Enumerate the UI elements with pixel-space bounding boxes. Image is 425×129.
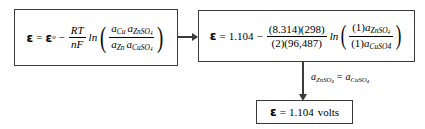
minus-sign: − — [56, 32, 68, 43]
subscript-znso: ZnSO — [316, 76, 332, 83]
subscript-4: 4 — [367, 79, 369, 84]
standard-cell-potential-value: 1.104 — [229, 31, 254, 42]
result-box: ε = 1.104 volts — [256, 100, 353, 124]
subscript-cuso: CuSO — [350, 76, 366, 83]
numeric-nernst-equation-box: ε = 1.104 − (8.314)(298) (2)(96,487) ln … — [198, 10, 415, 62]
subscript-zn: Zn — [117, 43, 125, 52]
activity-a-znso4: a — [125, 22, 133, 34]
activity-ratio-denominator: aZnaCuSO4 — [109, 38, 154, 52]
right-parenthesis: ) — [157, 23, 163, 52]
general-nernst-equation-box: ε = εo − RT nF ln ( aCuaZnSO4 aZnaCuSO4 … — [14, 9, 178, 66]
numeric-nernst-equation: ε = 1.104 − (8.314)(298) (2)(96,487) ln … — [210, 22, 403, 51]
gas-constant-fraction: (8.314)(298) (2)(96,487) — [267, 24, 327, 49]
subscript-cuso: CuSO — [132, 43, 150, 52]
standard-potential-symbol: ε — [45, 32, 52, 44]
natural-log-label: ln — [328, 31, 340, 42]
result-units: volts — [314, 107, 339, 118]
equals-sign: = — [33, 32, 45, 43]
nf-denominator: nF — [69, 38, 85, 50]
epsilon-symbol: ε — [27, 32, 34, 44]
epsilon-symbol: ε — [210, 30, 217, 42]
arrow-numeric-to-result — [302, 62, 304, 95]
natural-log-label: ln — [87, 32, 99, 43]
equals-sign: = — [217, 31, 229, 42]
result-equation: ε = 1.104 volts — [270, 106, 339, 118]
subscript-znso: ZnSO — [133, 27, 150, 36]
activity-equality-condition: aZnSO4=aCuSO4 — [311, 71, 369, 84]
result-value: 1.104 — [289, 107, 314, 118]
denominator-coefficient: (1) — [351, 37, 364, 49]
subscript-cuso4: CuSO4 — [370, 42, 392, 51]
right-parenthesis: ) — [396, 23, 402, 49]
subscript-znso: ZnSO — [371, 26, 388, 35]
nernst-equation-flowchart: ε = εo − RT nF ln ( aCuaZnSO4 aZnaCuSO4 … — [0, 0, 425, 129]
activity-ratio-numerator: aCuaZnSO4 — [109, 23, 154, 37]
subscript-znso4: ZnSO4 — [371, 26, 391, 35]
rt-numeric-numerator: (8.314)(298) — [267, 24, 327, 36]
general-nernst-equation: ε = εo − RT nF ln ( aCuaZnSO4 aZnaCuSO4 … — [27, 23, 166, 52]
activity-ratio-fraction: aCuaZnSO4 aZnaCuSO4 — [109, 23, 154, 52]
equals-sign: = — [277, 107, 289, 118]
left-parenthesis: ( — [341, 23, 347, 49]
subscript-znso4: ZnSO4 — [316, 76, 334, 83]
activity-ratio-denominator: (1)aCuSO4 — [349, 37, 393, 50]
subscript-znso4: ZnSO4 — [133, 27, 153, 36]
rt-over-nf-fraction: RT nF — [69, 25, 86, 50]
minus-sign: − — [254, 31, 266, 42]
left-parenthesis: ( — [100, 23, 106, 52]
subscript-4: 4 — [150, 46, 153, 52]
subscript-4: 4 — [150, 30, 153, 36]
epsilon-symbol: ε — [270, 106, 277, 118]
subscript-4: 4 — [388, 29, 391, 35]
subscript-cuso4: CuSO4 — [350, 76, 369, 83]
nf-numeric-denominator: (2)(96,487) — [269, 37, 323, 49]
rt-numerator: RT — [69, 25, 86, 37]
numerator-coefficient: (1) — [352, 21, 365, 33]
activity-ratio-fraction: (1)aZnSO4 (1)aCuSO4 — [349, 22, 393, 51]
activity-a-cuso4: a — [125, 38, 133, 50]
arrow-general-to-numeric — [178, 36, 197, 38]
subscript-cuso4: CuSO4 — [132, 43, 152, 52]
activity-ratio-numerator: (1)aZnSO4 — [350, 22, 392, 36]
equals-sign: = — [334, 71, 346, 82]
